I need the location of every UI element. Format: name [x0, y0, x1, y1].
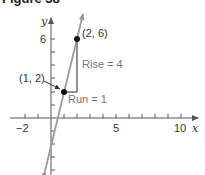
point-2-6 — [74, 36, 80, 42]
x-axis-label: x — [192, 122, 199, 135]
run-label: Run = 1 — [68, 93, 107, 105]
graph: −2 5 10 x 6 y (2, 6) (1, 2) — [0, 0, 205, 175]
point-label-pointer-arrow — [44, 81, 60, 89]
x-axis: −2 5 10 x — [10, 114, 199, 135]
y-axis: 6 y — [40, 15, 55, 175]
y-axis-ticks — [51, 39, 55, 170]
x-tick-label-10: 10 — [174, 122, 186, 134]
x-tick-label-neg2: −2 — [16, 122, 29, 134]
y-axis-label: y — [40, 15, 48, 28]
x-tick-label-5: 5 — [113, 122, 119, 134]
point-label-1-2: (1, 2) — [19, 72, 45, 84]
y-tick-label-6: 6 — [40, 33, 46, 45]
point-label-2-6: (2, 6) — [82, 27, 108, 39]
point-1-2 — [61, 89, 67, 95]
x-axis-ticks — [25, 114, 181, 118]
rise-label: Rise = 4 — [82, 58, 123, 70]
